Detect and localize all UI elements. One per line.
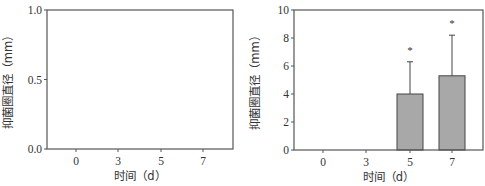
y-tick-label: 8: [283, 32, 289, 44]
x-tick-label: 0: [320, 156, 326, 168]
bar-day-7: [439, 76, 465, 150]
x-tick-label: 3: [115, 155, 121, 167]
y-tick-label: 0: [283, 144, 289, 156]
bar-day-5: [397, 94, 423, 150]
significance-marker: *: [407, 44, 413, 56]
plot-frame: [47, 10, 233, 149]
x-tick-label: 7: [200, 155, 206, 167]
y-axis-label: 抑菌圈直径（mm）: [1, 30, 15, 129]
left-chart: 0.00.51.00357时间（d）抑菌圈直径（mm）: [0, 0, 245, 186]
right-chart: **02468100357时间（d）抑菌圈直径（mm）: [245, 0, 485, 186]
significance-marker: *: [449, 17, 455, 29]
right-chart-panel: **02468100357时间（d）抑菌圈直径（mm）: [245, 0, 485, 186]
y-tick-label: 0.0: [28, 143, 43, 155]
y-tick-label: 2: [283, 116, 289, 128]
y-tick-label: 1.0: [28, 4, 43, 16]
x-axis-label: 时间（d）: [114, 169, 165, 183]
y-tick-label: 4: [283, 88, 289, 100]
y-axis-label: 抑菌圈直径（mm）: [248, 30, 262, 129]
x-tick-label: 7: [449, 156, 455, 168]
x-tick-label: 5: [158, 155, 164, 167]
y-tick-label: 6: [283, 60, 289, 72]
y-tick-label: 0.5: [28, 74, 43, 86]
left-chart-panel: 0.00.51.00357时间（d）抑菌圈直径（mm）: [0, 0, 245, 186]
x-tick-label: 3: [363, 156, 369, 168]
x-tick-label: 5: [407, 156, 413, 168]
x-axis-label: 时间（d）: [363, 170, 414, 184]
x-tick-label: 0: [73, 155, 79, 167]
y-tick-label: 10: [278, 4, 290, 16]
